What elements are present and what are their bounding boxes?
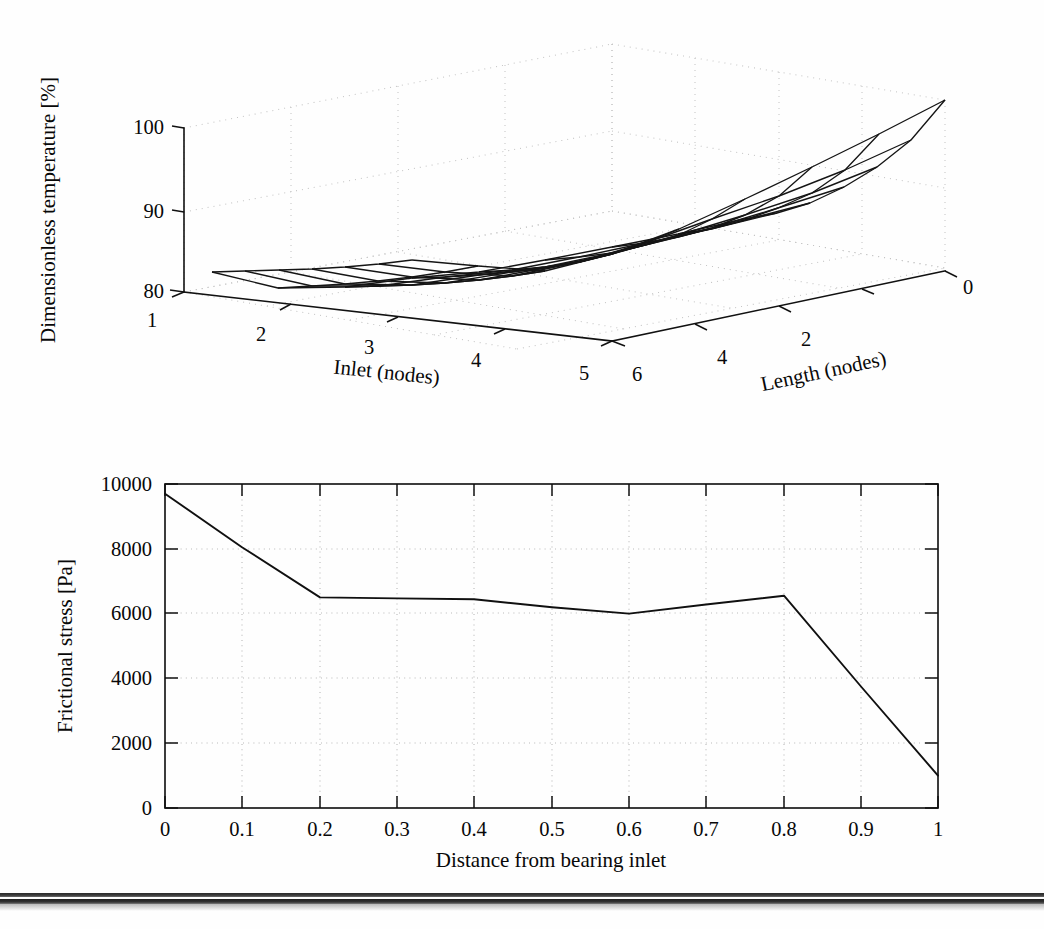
figure-page: 100 90 80 1 2 3 4 5 6 4 2 0 Dimensionles… [0,0,1044,929]
x-tick-label: 0 [160,818,170,840]
x-tick-label: 5 [579,362,589,384]
line-plot-figure: 0 2000 4000 6000 8000 10000 0 0.1 0.2 0.… [0,430,1044,880]
x-tick-label: 0.7 [693,818,719,840]
y-tick-label: 2000 [111,732,152,754]
y-tick-label: 2 [801,328,811,350]
x-tick-label: 3 [364,336,374,358]
line-plot-x-tick-labels: 0 0.1 0.2 0.3 0.4 0.5 0.6 0.7 0.8 0.9 1 [160,818,943,840]
x-tick-label: 0.3 [384,818,410,840]
z-tick-label: 100 [133,116,164,138]
line-plot-grid [165,484,938,808]
x-tick-label: 0.5 [539,818,565,840]
surface-mesh [212,100,945,288]
x-tick-label: 1 [147,309,157,331]
x-axis-title: Distance from bearing inlet [436,848,666,872]
y-tick-label: 0 [963,276,973,298]
z-axis-title: Dimensionless temperature [%] [36,77,60,343]
x-tick-label: 4 [471,349,481,371]
z-tick-label: 80 [144,280,165,302]
y-axis-title: Length (nodes) [759,346,889,396]
x-tick-label: 0.4 [461,818,487,840]
frictional-stress-line [165,494,938,776]
y-tick-label: 0 [142,797,152,819]
y-tick-label: 4000 [111,667,152,689]
z-axis [170,126,184,292]
x-tick-label: 0.2 [307,818,333,840]
page-rule-top [0,893,1044,897]
y-tick-label: 8000 [111,538,152,560]
line-plot-svg: 0 2000 4000 6000 8000 10000 0 0.1 0.2 0.… [0,430,1044,880]
surface-grid [184,44,945,349]
surface-tick-labels: 100 90 80 1 2 3 4 5 6 4 2 0 [133,116,973,385]
y-tick-label: 6 [632,363,642,385]
page-rule-shadow [0,904,1044,911]
y-tick-label: 4 [717,346,727,368]
z-tick-label: 90 [144,200,165,222]
surface-plot-figure: 100 90 80 1 2 3 4 5 6 4 2 0 Dimensionles… [0,0,1044,430]
y-axis-title: Frictional stress [Pa] [53,559,77,733]
x-axis-title: Inlet (nodes) [332,355,441,390]
y-tick-label: 6000 [111,602,152,624]
x-tick-label: 0.1 [229,818,255,840]
x-tick-label: 2 [256,323,266,345]
x-tick-label: 0.8 [771,818,797,840]
y-tick-label: 10000 [101,473,152,495]
line-plot-y-tick-labels: 0 2000 4000 6000 8000 10000 [101,473,152,819]
x-tick-label: 1 [933,818,943,840]
x-tick-label: 0.9 [848,818,874,840]
inlet-axis [172,292,612,346]
x-tick-label: 0.6 [616,818,642,840]
length-axis [612,271,957,346]
surface-plot-svg: 100 90 80 1 2 3 4 5 6 4 2 0 Dimensionles… [0,0,1044,430]
